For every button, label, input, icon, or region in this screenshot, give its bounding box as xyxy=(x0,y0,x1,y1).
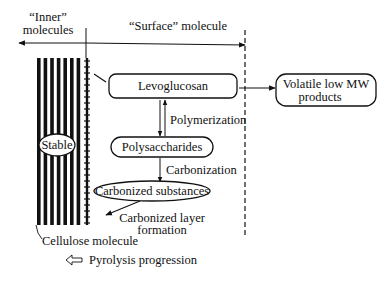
carbonized-layer-label-line2: formation xyxy=(137,223,187,237)
stable-label: Stable xyxy=(41,138,73,152)
hollow-left-arrow-icon xyxy=(66,255,82,265)
levoglucosan-label: Levoglucosan xyxy=(138,79,209,93)
surface-molecule-comb xyxy=(84,58,90,225)
inner-molecules-label-line2: molecules xyxy=(23,23,74,37)
cellulose-molecule-label: Cellulose molecule xyxy=(42,234,139,248)
polymerization-label: Polymerization xyxy=(170,113,247,127)
volatile-products-label-line1: Volatile low MW xyxy=(283,77,370,91)
surface-molecule-label: “Surface” molecule xyxy=(129,19,228,33)
carbonization-label: Carbonization xyxy=(166,163,238,177)
volatile-products-label-line2: products xyxy=(298,90,341,104)
pyrolysis-diagram: “Inner” molecules “Surface” molecule Sta… xyxy=(0,0,387,281)
surface-to-levoglucosan-connector xyxy=(94,74,106,82)
polysaccharides-label: Polysaccharides xyxy=(122,140,203,154)
inner-molecules-label-line1: “Inner” xyxy=(29,10,66,24)
cellulose-stripe xyxy=(77,58,81,225)
surface-region-arrow xyxy=(86,43,245,45)
carbonized-substances-label: Carbonized substances xyxy=(95,184,209,198)
pyrolysis-progression-label: Pyrolysis progression xyxy=(89,253,198,267)
